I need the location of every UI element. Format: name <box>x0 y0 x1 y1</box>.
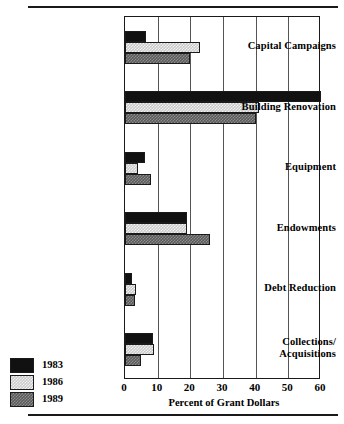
bar-1989-4 <box>125 295 135 306</box>
x-tick-10: 10 <box>151 381 162 393</box>
legend-label-1983: 1983 <box>42 359 63 370</box>
legend-item-1989: 1989 <box>10 391 110 408</box>
bar-1989-3 <box>125 234 210 245</box>
bar-1983-3 <box>125 212 187 223</box>
top-rule <box>28 6 338 8</box>
x-tick-30: 30 <box>217 381 228 393</box>
category-label-1: Building Renovation <box>226 101 344 113</box>
legend-item-1983: 1983 <box>10 357 110 374</box>
x-tick-20: 20 <box>184 381 195 393</box>
category-label-3: Endowments <box>226 222 344 234</box>
x-tick-0: 0 <box>121 381 127 393</box>
bar-1986-0 <box>125 42 200 53</box>
category-label-line1: Debt Reduction <box>226 282 336 294</box>
bar-1986-4 <box>125 284 136 295</box>
bar-chart-figure: Capital CampaignsBuilding RenovationEqui… <box>0 0 344 424</box>
bar-1989-5 <box>125 355 141 366</box>
category-label-line2: Acquisitions <box>226 348 336 360</box>
x-tick-50: 50 <box>282 381 293 393</box>
bar-1989-0 <box>125 53 190 64</box>
category-label-4: Debt Reduction <box>226 282 344 294</box>
x-tick-40: 40 <box>249 381 260 393</box>
x-axis-title: Percent of Grant Dollars <box>124 397 324 408</box>
legend-swatch-1983 <box>10 358 34 373</box>
bar-1989-2 <box>125 174 151 185</box>
category-label-line1: Building Renovation <box>226 101 336 113</box>
x-tick-60: 60 <box>315 381 326 393</box>
category-label-line1: Capital Campaigns <box>226 40 336 52</box>
bar-1989-1 <box>125 113 256 124</box>
gridline-30 <box>223 17 224 378</box>
bar-1986-2 <box>125 163 138 174</box>
bar-1983-5 <box>125 333 153 344</box>
legend-label-1989: 1989 <box>42 393 63 404</box>
category-label-2: Equipment <box>226 161 344 173</box>
bar-1986-3 <box>125 223 187 234</box>
bottom-rule <box>28 414 338 416</box>
legend-swatch-1986 <box>10 375 34 390</box>
gridline-20 <box>190 17 191 378</box>
bar-1983-4 <box>125 273 132 284</box>
category-label-line1: Equipment <box>226 161 336 173</box>
bar-1983-0 <box>125 31 146 42</box>
bar-1986-5 <box>125 344 154 355</box>
legend-label-1986: 1986 <box>42 376 63 387</box>
x-axis-ticks: 0102030405060 <box>124 381 320 395</box>
legend-swatch-1989 <box>10 392 34 407</box>
category-label-line1: Collections/ <box>226 336 336 348</box>
category-label-line1: Endowments <box>226 222 336 234</box>
gridline-10 <box>158 17 159 378</box>
gridline-40 <box>256 17 257 378</box>
plot-area <box>124 16 320 379</box>
bar-1983-2 <box>125 152 145 163</box>
legend-item-1986: 1986 <box>10 374 110 391</box>
category-label-5: Collections/Acquisitions <box>226 336 344 360</box>
category-label-0: Capital Campaigns <box>226 40 344 52</box>
chart-legend: 198319861989 <box>10 357 110 408</box>
gridline-50 <box>288 17 289 378</box>
